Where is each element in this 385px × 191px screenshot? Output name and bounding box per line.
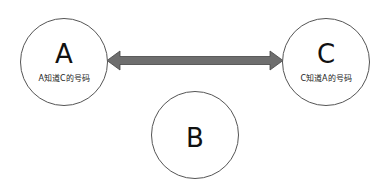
node-c-label: C — [317, 41, 335, 67]
bidirectional-arrow-a-c — [107, 51, 283, 70]
node-a: A A知道C的号码 — [20, 18, 108, 106]
node-a-caption: A知道C的号码 — [38, 72, 89, 83]
node-c: C C知道A的号码 — [282, 18, 370, 106]
node-b-label: B — [186, 125, 204, 151]
node-a-label: A — [55, 41, 73, 67]
node-c-caption: C知道A的号码 — [300, 72, 351, 83]
node-b: B — [151, 91, 239, 179]
